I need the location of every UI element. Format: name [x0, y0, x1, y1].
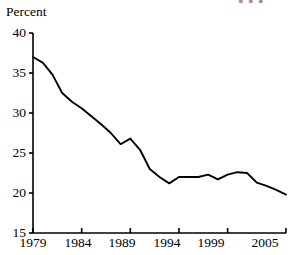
y-axis-tick-label: 25	[2, 146, 26, 160]
y-axis-tick-label: 40	[2, 26, 26, 40]
x-axis-tick-label: 1994	[145, 236, 189, 250]
x-axis-tick-label: 1989	[100, 236, 144, 250]
x-axis-tick-label: 1984	[56, 236, 100, 250]
data-series-line	[33, 57, 286, 195]
y-axis-tick-label: 30	[2, 106, 26, 120]
y-axis-tick-label: 35	[2, 66, 26, 80]
y-axis-tick-label: 20	[2, 186, 26, 200]
x-axis-tick-label: 2005	[243, 236, 287, 250]
x-axis-tick-label: 1999	[189, 236, 233, 250]
x-axis-tick-label: 1979	[11, 236, 55, 250]
chart-figure: ▮ ▮ ▮ Percent 403530252015 1979198419891…	[0, 0, 298, 255]
axes	[33, 33, 286, 233]
line-chart-plot	[0, 0, 298, 255]
